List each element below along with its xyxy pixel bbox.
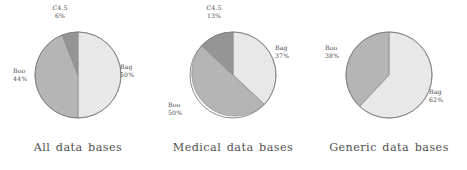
slice-label-boo: Boo 50%	[168, 101, 202, 116]
slice-label-boo: Boo 44%	[13, 67, 47, 82]
pie-panel-all-databases: C4.5 6% Bag 50% Boo 44% All data bases	[0, 0, 156, 170]
slice-label-percent: 62%	[429, 96, 463, 104]
pie-panel-medical-databases: C4.5 13% Bag 37% Boo 50% Medical data ba…	[155, 0, 311, 170]
slice-label-c45: C4.5 6%	[40, 4, 80, 19]
pie-svg	[34, 31, 122, 119]
slice-label-percent: 38%	[325, 52, 359, 60]
slice-label-name: C4.5	[40, 4, 80, 12]
slice-label-bag: Bag 37%	[275, 44, 309, 59]
slice-label-name: Bag	[429, 88, 463, 96]
panel-caption: Generic data bases	[311, 141, 467, 154]
pie-medical-databases	[189, 31, 277, 119]
panel-caption: All data bases	[0, 141, 156, 154]
slice-label-name: Bag	[275, 44, 309, 52]
slice-label-percent: 37%	[275, 52, 309, 60]
slice-label-name: Boo	[13, 67, 47, 75]
slice-label-name: Boo	[325, 44, 359, 52]
pie-svg	[189, 31, 277, 119]
pie-all-databases	[34, 31, 122, 119]
slice-label-bag: Bag 62%	[429, 88, 463, 103]
pie-panel-generic-databases: Boo 38% Bag 62% Generic data bases	[311, 0, 467, 170]
pie-chart-figure: C4.5 6% Bag 50% Boo 44% All data bases	[0, 0, 467, 170]
slice-label-c45: C4.5 13%	[194, 4, 234, 19]
slice-label-name: C4.5	[194, 4, 234, 12]
slice-label-boo: Boo 38%	[325, 44, 359, 59]
slice-label-percent: 6%	[40, 12, 80, 20]
slice-label-percent: 13%	[194, 12, 234, 20]
pie-slice-bag	[78, 32, 121, 118]
slice-label-bag: Bag 50%	[120, 63, 154, 78]
slice-label-percent: 50%	[168, 109, 202, 117]
slice-label-name: Boo	[168, 101, 202, 109]
slice-label-percent: 44%	[13, 75, 47, 83]
slice-label-percent: 50%	[120, 71, 154, 79]
panel-caption: Medical data bases	[155, 141, 311, 154]
slice-label-name: Bag	[120, 63, 154, 71]
